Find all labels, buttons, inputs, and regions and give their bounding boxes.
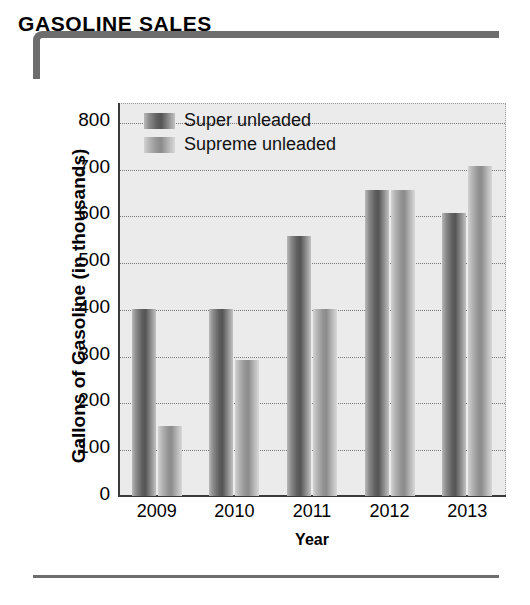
bar-2013-supreme [468, 166, 492, 496]
x-axis-title: Year [118, 531, 506, 549]
bottom-divider [33, 575, 499, 578]
bar-2009-super [132, 309, 156, 496]
bar-2013-super [442, 213, 466, 496]
legend-swatch-icon [144, 137, 175, 153]
bar-2012-supreme [391, 190, 415, 496]
bar-2011-super [287, 236, 311, 496]
legend-item-super: Super unleaded [144, 110, 336, 131]
chart-legend: Super unleadedSupreme unleaded [144, 110, 336, 155]
legend-label: Supreme unleaded [184, 134, 336, 155]
x-tick-label: 2009 [118, 501, 196, 522]
legend-label: Super unleaded [184, 110, 311, 131]
bar-2012-super [365, 190, 389, 496]
x-axis-tick-labels: 20092010201120122013 [118, 501, 506, 527]
legend-item-supreme: Supreme unleaded [144, 134, 336, 155]
bar-2010-super [209, 309, 233, 496]
x-tick-label: 2011 [273, 501, 351, 522]
x-tick-label: 2012 [351, 501, 429, 522]
x-tick-label: 2010 [196, 501, 274, 522]
bar-2010-supreme [235, 360, 259, 496]
gasoline-sales-bar-chart: Gallons of Gasoline (in thousands) 01002… [0, 0, 530, 605]
legend-swatch-icon [144, 113, 175, 129]
bar-2011-supreme [313, 309, 337, 496]
bar-2009-supreme [158, 426, 182, 496]
x-tick-label: 2013 [428, 501, 506, 522]
